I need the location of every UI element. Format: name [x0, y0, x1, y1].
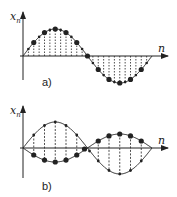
sample-point: [74, 40, 79, 45]
sample-point: [140, 160, 143, 163]
sample-point: [59, 29, 62, 32]
sample-point: [102, 74, 105, 77]
x-axis-label: n: [158, 42, 165, 55]
sample-point: [88, 150, 91, 153]
panel-a: xn n a): [10, 10, 168, 88]
sample-point: [75, 134, 78, 137]
sample-point: [97, 160, 100, 163]
y-axis-label: xn: [10, 10, 21, 25]
sample-point: [113, 81, 116, 84]
signal-diagram: xn n a) xn n b): [0, 0, 177, 197]
sample-point: [42, 158, 47, 163]
x-axis-label: n: [158, 134, 165, 147]
panel-label: a): [42, 76, 52, 88]
sample-point: [129, 169, 132, 172]
sample-point: [32, 134, 35, 137]
sample-point: [27, 48, 30, 51]
sample-point: [31, 152, 36, 157]
sample-point: [128, 77, 133, 82]
sample-point: [38, 36, 41, 39]
sample-point: [53, 26, 58, 31]
sample-point: [96, 138, 101, 143]
sample-point: [124, 81, 127, 84]
sample-point: [139, 138, 144, 143]
sample-point: [63, 30, 68, 35]
sample-point: [65, 124, 68, 127]
sample-point: [117, 80, 122, 85]
sample-point: [145, 62, 148, 65]
sample-point: [106, 133, 111, 138]
sample-point: [42, 30, 47, 35]
sample-point: [53, 159, 58, 164]
sample-point: [108, 169, 111, 172]
sample-point: [117, 131, 122, 136]
sample-point: [128, 133, 133, 138]
sample-point: [135, 74, 138, 77]
panel-label: b): [42, 180, 52, 192]
sample-point: [82, 146, 87, 151]
sample-point: [106, 77, 111, 82]
sample-point: [63, 158, 68, 163]
sample-point: [85, 53, 90, 58]
y-axis-label: xn: [10, 104, 21, 119]
sample-point: [31, 40, 36, 45]
sample-point: [92, 62, 95, 65]
sample-point: [70, 36, 73, 39]
sample-point: [54, 121, 57, 124]
sample-point: [43, 124, 46, 127]
sample-point: [81, 48, 84, 51]
sample-point: [139, 67, 144, 72]
sample-point: [118, 173, 121, 176]
sample-point: [74, 152, 79, 157]
sample-point: [96, 67, 101, 72]
sample-point: [49, 29, 52, 32]
panel-b: xn n b): [10, 104, 168, 192]
